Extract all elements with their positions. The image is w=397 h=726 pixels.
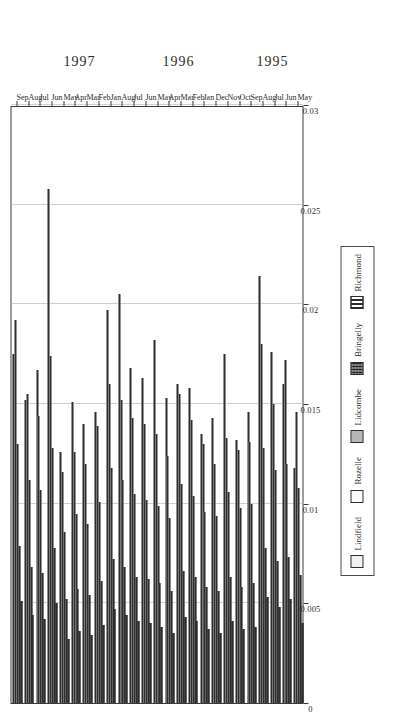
bar-group bbox=[23, 105, 35, 703]
bar-group bbox=[269, 105, 281, 703]
category-axis-tick bbox=[28, 101, 29, 106]
bar-richmond bbox=[242, 629, 244, 703]
legend-label: Rozelle bbox=[352, 457, 362, 485]
bar-richmond bbox=[289, 599, 291, 703]
legend-label: Lindfield bbox=[352, 517, 362, 551]
bar-group bbox=[222, 105, 234, 703]
category-axis-tick bbox=[227, 101, 228, 106]
category-axis-tick bbox=[168, 101, 169, 106]
category-axis-tick bbox=[157, 101, 158, 106]
bar-richmond bbox=[149, 623, 151, 703]
month-label: Sep bbox=[250, 93, 262, 102]
value-axis-tick-label: 0 bbox=[308, 704, 312, 714]
category-axis: MayJunJulAugSepOctNovDecJanFebMarAprMayJ… bbox=[10, 2, 303, 106]
bar-group bbox=[93, 105, 105, 703]
month-label: Aug bbox=[28, 93, 42, 102]
legend-swatch-bringelly bbox=[351, 362, 364, 375]
bar-group bbox=[105, 105, 117, 703]
category-axis-tick bbox=[74, 101, 75, 106]
legend-swatch-rozelle bbox=[351, 490, 364, 503]
category-axis-tick bbox=[262, 101, 263, 106]
bar-group bbox=[199, 105, 211, 703]
bar-group bbox=[128, 105, 140, 703]
bar-group bbox=[245, 105, 257, 703]
legend-item-lidcombe[interactable]: Lidcombe bbox=[351, 389, 364, 444]
month-label: Aug bbox=[262, 93, 276, 102]
category-axis-tick bbox=[39, 101, 40, 106]
bar-richmond bbox=[67, 639, 69, 703]
legend-label: Richmond bbox=[352, 254, 362, 292]
bar-richmond bbox=[137, 621, 139, 703]
category-axis-tick bbox=[192, 101, 193, 106]
value-axis-tick-label: 0.005 bbox=[300, 604, 320, 614]
bar-richmond bbox=[160, 627, 162, 703]
bar-richmond bbox=[219, 633, 221, 703]
legend-swatch-lindfield bbox=[351, 555, 364, 568]
bar-richmond bbox=[43, 619, 45, 703]
legend-item-bringelly[interactable]: Bringelly bbox=[351, 323, 364, 375]
month-label: May bbox=[63, 93, 78, 102]
category-axis-tick bbox=[63, 101, 64, 106]
bar-series-container bbox=[11, 107, 302, 703]
category-axis-tick bbox=[145, 101, 146, 106]
bar-group bbox=[187, 105, 199, 703]
legend-swatch-richmond bbox=[351, 296, 364, 309]
month-label: Jun bbox=[145, 93, 156, 102]
month-label: May bbox=[157, 93, 172, 102]
bar-group bbox=[46, 105, 58, 703]
value-axis-tick bbox=[303, 703, 308, 704]
bar-richmond bbox=[125, 615, 127, 703]
bar-richmond bbox=[172, 633, 174, 703]
year-label: 1995 bbox=[256, 54, 288, 70]
category-axis-tick bbox=[16, 101, 17, 106]
month-label: Jun bbox=[285, 93, 296, 102]
legend-label: Lidcombe bbox=[352, 389, 362, 426]
bar-richmond bbox=[207, 629, 209, 703]
bar-richmond bbox=[20, 601, 22, 703]
category-axis-tick bbox=[51, 101, 52, 106]
legend-item-richmond[interactable]: Richmond bbox=[351, 254, 364, 310]
category-axis-tick bbox=[285, 101, 286, 106]
bar-richmond bbox=[278, 607, 280, 703]
bar-group bbox=[175, 105, 187, 703]
month-label: May bbox=[297, 93, 312, 102]
month-label: Jun bbox=[51, 93, 62, 102]
value-axis-tick-label: 0.025 bbox=[300, 206, 320, 216]
value-axis: 00.0050.010.0150.020.0250.03 bbox=[303, 106, 343, 704]
chart-page: 00.0050.010.0150.020.0250.03 Nitrogen di… bbox=[0, 0, 397, 726]
legend-label: Bringelly bbox=[352, 323, 362, 357]
legend-item-lindfield[interactable]: Lindfield bbox=[351, 517, 364, 569]
category-axis-tick bbox=[133, 101, 134, 106]
category-axis-tick bbox=[121, 101, 122, 106]
month-label: Aug bbox=[121, 93, 135, 102]
category-axis-tick bbox=[250, 101, 251, 106]
month-label: Jan bbox=[203, 93, 214, 102]
legend-item-rozelle[interactable]: Rozelle bbox=[351, 457, 364, 503]
bar-group bbox=[34, 105, 46, 703]
category-axis-tick bbox=[215, 101, 216, 106]
bar-group bbox=[58, 105, 70, 703]
year-label: 1997 bbox=[63, 54, 95, 70]
category-axis-tick bbox=[86, 101, 87, 106]
bar-group bbox=[116, 105, 128, 703]
category-axis-tick bbox=[203, 101, 204, 106]
value-axis-tick-label: 0.015 bbox=[300, 405, 320, 415]
bar-group bbox=[234, 105, 246, 703]
bar-richmond bbox=[102, 625, 104, 703]
legend: RichmondBringellyLidcombeRozelleLindfiel… bbox=[340, 246, 374, 576]
bar-richmond bbox=[78, 631, 80, 703]
bar-group bbox=[70, 105, 82, 703]
month-label: Dec bbox=[215, 93, 228, 102]
bar-group bbox=[257, 105, 269, 703]
category-axis-tick bbox=[180, 101, 181, 106]
bar-group bbox=[210, 105, 222, 703]
bar-group bbox=[281, 105, 293, 703]
bar-group bbox=[163, 105, 175, 703]
month-label: Jan bbox=[110, 93, 121, 102]
category-axis-tick bbox=[98, 101, 99, 106]
value-axis-tick-label: 0.02 bbox=[302, 305, 318, 315]
month-label: Sep bbox=[16, 93, 28, 102]
bar-richmond bbox=[195, 621, 197, 703]
value-axis-tick-label: 0.01 bbox=[302, 505, 318, 515]
bar-richmond bbox=[55, 603, 57, 703]
